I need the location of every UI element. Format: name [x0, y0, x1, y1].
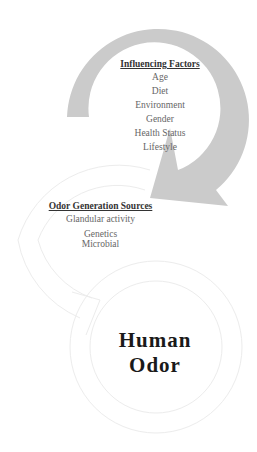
factor-diet: Diet	[95, 84, 225, 98]
factor-lifestyle: Lifestyle	[95, 140, 225, 154]
source-genetics: Genetics	[38, 229, 163, 239]
factor-age: Age	[95, 70, 225, 84]
source-glandular-activity: Glandular activity	[38, 212, 163, 226]
factor-environment: Environment	[95, 98, 225, 112]
influencing-factors-block: Influencing Factors Age Diet Environment…	[95, 58, 225, 154]
odor-generation-sources-block: Odor Generation Sources Glandular activi…	[38, 200, 163, 249]
source-microbial: Microbial	[38, 239, 163, 249]
middle-ring-arrow	[18, 165, 150, 335]
odor-generation-sources-heading: Odor Generation Sources	[38, 200, 163, 212]
center-title: Human Odor	[100, 328, 210, 378]
factor-gender: Gender	[95, 112, 225, 126]
influencing-factors-heading: Influencing Factors	[95, 58, 225, 70]
center-title-line2: Odor	[100, 353, 210, 378]
factor-health-status: Health Status	[95, 126, 225, 140]
center-title-line1: Human	[100, 328, 210, 353]
